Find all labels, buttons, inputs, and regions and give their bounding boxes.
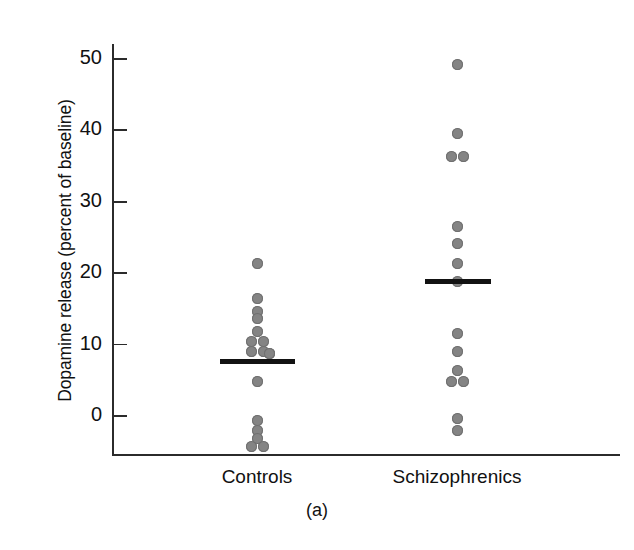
y-tick-label-30: 30 — [56, 190, 102, 210]
y-tick-label-40: 40 — [56, 118, 102, 138]
data-point — [246, 441, 257, 452]
group-label-schizophrenics: Schizophrenics — [357, 466, 557, 488]
data-point — [452, 328, 463, 339]
data-point — [452, 258, 463, 269]
y-tick-label-wrap-20: 20 — [46, 261, 102, 285]
y-tick-20 — [114, 272, 127, 274]
dot-plot-figure: Dopamine release (percent of baseline) 0… — [0, 0, 634, 550]
data-point — [264, 348, 275, 359]
data-point — [452, 425, 463, 436]
y-tick-label-wrap-0: 0 — [46, 404, 102, 428]
data-point — [452, 221, 463, 232]
y-tick-label-wrap-50: 50 — [46, 47, 102, 71]
data-point — [258, 336, 269, 347]
data-point — [246, 336, 257, 347]
y-axis-label: Dopamine release (percent of baseline) — [55, 41, 76, 461]
y-tick-0 — [114, 415, 127, 417]
data-point — [452, 365, 463, 376]
data-point — [252, 293, 263, 304]
y-tick-50 — [114, 58, 127, 60]
data-point — [458, 376, 469, 387]
y-tick-10 — [114, 344, 127, 346]
data-point — [446, 151, 457, 162]
data-point — [246, 346, 257, 357]
x-axis-line — [112, 454, 620, 456]
data-point — [252, 376, 263, 387]
group-label-controls: Controls — [167, 466, 347, 488]
data-point — [258, 441, 269, 452]
mean-line-controls — [220, 359, 295, 364]
y-tick-label-wrap-10: 10 — [46, 333, 102, 357]
data-point — [452, 128, 463, 139]
data-point — [452, 238, 463, 249]
data-point — [252, 313, 263, 324]
y-tick-label-10: 10 — [56, 333, 102, 353]
data-point — [452, 59, 463, 70]
data-point — [452, 413, 463, 424]
y-tick-label-wrap-30: 30 — [46, 190, 102, 214]
data-point — [452, 346, 463, 357]
y-axis-line — [112, 44, 114, 456]
y-tick-label-wrap-40: 40 — [46, 118, 102, 142]
panel-caption: (a) — [0, 500, 634, 521]
y-tick-label-0: 0 — [56, 404, 102, 424]
y-tick-label-50: 50 — [56, 47, 102, 67]
data-point — [458, 151, 469, 162]
data-point — [252, 258, 263, 269]
mean-line-schizophrenics — [425, 279, 491, 284]
y-tick-40 — [114, 129, 127, 131]
y-tick-label-20: 20 — [56, 261, 102, 281]
data-point — [446, 376, 457, 387]
y-tick-30 — [114, 201, 127, 203]
